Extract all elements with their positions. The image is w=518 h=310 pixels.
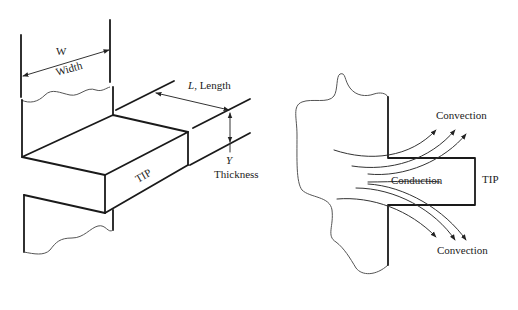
convection-label-bottom: Convection [437,244,488,256]
left-panel-isometric-fin: W Width TIP L, Length Y [21,20,259,254]
right-panel-heat-flow: TIP Convection Conduction Convection [296,74,499,274]
width-label: Width [54,59,84,78]
width-symbol: W [56,45,67,57]
tip-label-right: TIP [482,173,499,185]
thickness-symbol: Y [226,154,234,166]
fin-diagram-figure: W Width TIP L, Length Y [0,0,518,310]
tip-label-left: TIP [133,166,153,185]
conduction-label: Conduction [391,174,443,186]
length-label: L, Length [187,79,231,91]
convection-label-top: Convection [436,109,487,121]
fin-box: TIP [22,115,188,213]
base-body-outline [296,74,388,274]
width-dimension: W Width [23,45,109,78]
thickness-label: Thickness [214,168,259,180]
base-wall-lower [24,195,113,254]
